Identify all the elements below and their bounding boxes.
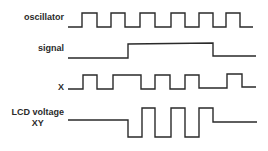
lcd-voltage-waveform — [68, 108, 257, 137]
signal-waveform — [68, 43, 256, 58]
x-waveform — [68, 74, 256, 89]
timing-waveforms — [0, 0, 268, 151]
oscillator-waveform — [68, 13, 253, 27]
